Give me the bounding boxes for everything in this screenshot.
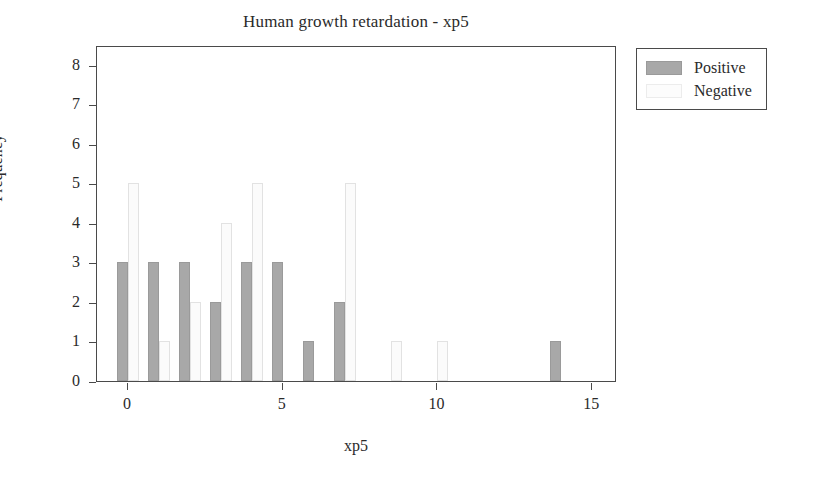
bar-negative-x2 [190,302,201,381]
bar-positive-x4 [241,262,252,381]
y-tick-label-8: 8 [58,56,80,74]
legend-swatch-negative [646,84,682,98]
legend-label-negative: Negative [694,82,752,100]
plot-area [96,46,616,382]
x-tick-label-15: 15 [571,395,611,413]
y-tick-label-5: 5 [58,174,80,192]
y-tick-mark-2 [89,303,96,304]
bar-positive-x14 [550,341,561,381]
y-tick-label-2: 2 [58,293,80,311]
y-tick-mark-8 [89,66,96,67]
bar-positive-x5 [272,262,283,381]
bar-negative-x1 [159,341,170,381]
y-tick-label-6: 6 [58,135,80,153]
x-tick-label-5: 5 [262,395,302,413]
y-tick-label-7: 7 [58,95,80,113]
y-tick-label-4: 4 [58,214,80,232]
bar-positive-x0 [117,262,128,381]
y-tick-mark-3 [89,263,96,264]
y-tick-mark-6 [89,145,96,146]
y-tick-mark-1 [89,342,96,343]
bar-negative-x4 [252,183,263,381]
bar-positive-x6 [303,341,314,381]
bar-positive-x3 [210,302,221,381]
legend-item-negative[interactable]: Negative [646,79,752,102]
legend-label-positive: Positive [694,59,746,77]
x-tick-mark-15 [591,383,592,390]
y-tick-mark-5 [89,184,96,185]
chart-legend: Positive Negative [636,48,767,110]
bar-negative-x0 [128,183,139,381]
bar-positive-x7 [334,302,345,381]
x-tick-mark-5 [282,383,283,390]
x-tick-label-0: 0 [107,395,147,413]
y-tick-label-3: 3 [58,253,80,271]
x-tick-label-10: 10 [416,395,456,413]
y-axis-label: Frequency [0,134,6,202]
chart-figure: Human growth retardation - xp5 Frequency… [0,0,832,492]
bar-negative-x10 [437,341,448,381]
x-tick-mark-10 [436,383,437,390]
bars-layer [97,47,615,381]
bar-negative-x3 [221,223,232,381]
legend-item-positive[interactable]: Positive [646,56,752,79]
bar-positive-x1 [148,262,159,381]
bar-negative-x7 [345,183,356,381]
y-tick-mark-7 [89,105,96,106]
bar-positive-x2 [179,262,190,381]
legend-swatch-positive [646,61,682,75]
y-tick-mark-4 [89,224,96,225]
y-tick-mark-0 [89,382,96,383]
chart-title: Human growth retardation - xp5 [96,12,616,32]
y-tick-label-0: 0 [58,372,80,390]
bar-negative-x8.5 [391,341,402,381]
y-tick-label-1: 1 [58,332,80,350]
x-axis-label: xp5 [96,437,616,455]
x-tick-mark-0 [127,383,128,390]
